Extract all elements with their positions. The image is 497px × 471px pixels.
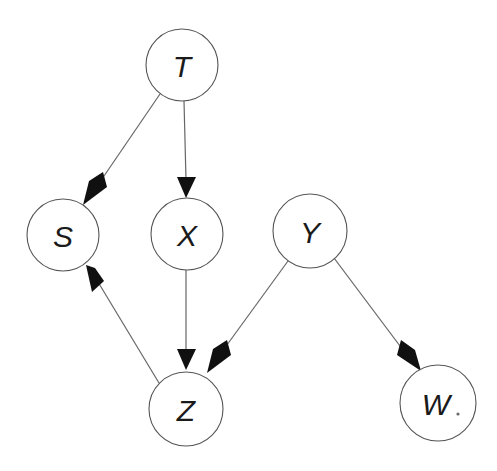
dag-diagram: T S X Y Z W [0, 0, 497, 471]
edge-X-to-Z [177, 270, 196, 370]
node-W[interactable]: W [400, 365, 476, 441]
node-T[interactable]: T [146, 29, 218, 101]
node-label-W: W [422, 388, 453, 421]
node-label-T: T [173, 50, 194, 83]
node-label-Z: Z [176, 394, 197, 427]
arrowhead-Y-Z [207, 340, 231, 373]
dag-canvas: T S X Y Z W [0, 0, 497, 471]
node-S[interactable]: S [27, 199, 99, 271]
period-speck-icon [456, 412, 459, 415]
edge-line-Z-S [95, 277, 159, 383]
edge-Y-to-Z [207, 261, 288, 373]
edge-T-to-S [83, 94, 160, 205]
edge-layer [83, 94, 421, 383]
node-Z[interactable]: Z [149, 372, 223, 446]
arrowhead-T-X [177, 177, 196, 198]
edge-line-T-X [184, 101, 186, 180]
node-label-Y: Y [300, 216, 322, 249]
edge-Z-to-S [86, 265, 159, 383]
arrowhead-X-Z [177, 349, 196, 370]
edge-T-to-X [177, 101, 196, 198]
arrowhead-Y-W [397, 340, 421, 371]
node-X[interactable]: X [151, 198, 223, 270]
edge-line-Y-W [334, 258, 409, 358]
arrowhead-T-S [83, 172, 107, 205]
edge-Y-to-W [334, 258, 421, 371]
node-label-X: X [176, 219, 198, 252]
node-label-S: S [53, 220, 73, 253]
node-Y[interactable]: Y [273, 194, 347, 268]
node-layer: T S X Y Z W [27, 29, 476, 446]
